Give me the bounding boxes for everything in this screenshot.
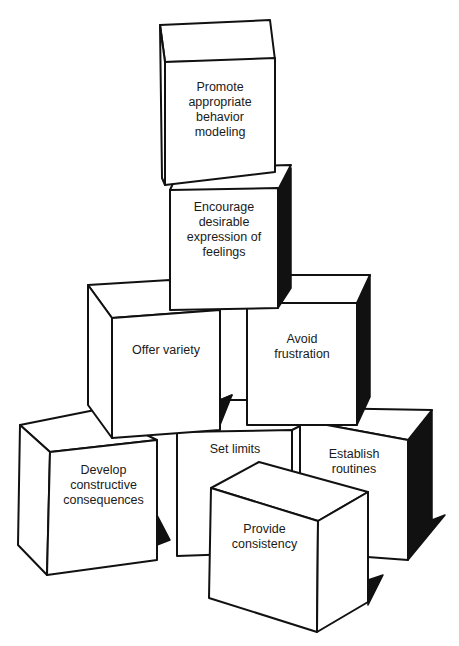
block-pyramid-diagram: Promote appropriate behavior modeling En… [0,0,459,646]
label-offer-variety: Offer variety [112,343,220,358]
label-avoid-frustration: Avoid frustration [247,332,357,362]
label-develop-consequences: Develop constructive consequences [50,463,157,508]
label-provide-consistency: Provide consistency [211,522,318,552]
label-encourage-feelings: Encourage desirable expression of feelin… [170,200,278,260]
label-promote-modeling: Promote appropriate behavior modeling [165,80,275,140]
label-set-limits: Set limits [185,442,285,457]
label-establish-routines: Establish routines [300,447,408,477]
